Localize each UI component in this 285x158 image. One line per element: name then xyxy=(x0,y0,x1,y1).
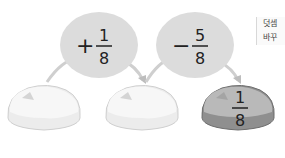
op1-numerator: 1 xyxy=(99,26,109,45)
side-note-line-2: 바꾸 xyxy=(257,31,285,45)
op2-denominator: 8 xyxy=(195,49,205,68)
stone-3-numerator: 1 xyxy=(235,88,245,107)
side-note: 덧셈 바꾸 xyxy=(256,17,285,45)
operation-bubble-1 xyxy=(60,12,138,78)
fraction-diagram: + 1 8 − 5 8 1 8 xyxy=(0,0,285,158)
side-note-line-1: 덧셈 xyxy=(257,17,285,31)
op1-sign: + xyxy=(76,33,94,58)
stone-2 xyxy=(106,85,178,130)
op2-sign: − xyxy=(172,33,190,58)
operation-bubble-2 xyxy=(156,12,234,78)
op2-numerator: 5 xyxy=(195,26,205,45)
op1-denominator: 8 xyxy=(99,49,109,68)
stone-3-denominator: 8 xyxy=(235,111,245,130)
stone-1 xyxy=(8,85,80,130)
